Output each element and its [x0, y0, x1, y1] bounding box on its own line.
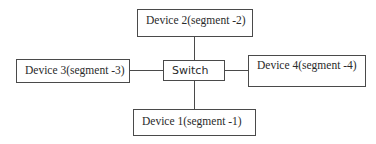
node-device-2: Device 2(segment -2)	[137, 9, 253, 37]
node-label: Device 3(segment -3)	[25, 64, 125, 76]
node-device-3: Device 3(segment -3)	[16, 59, 130, 83]
node-label: Device 4(segment -4)	[257, 59, 357, 71]
edge-switch-device-1	[194, 81, 195, 109]
node-device-4: Device 4(segment -4)	[248, 55, 366, 87]
node-label: Device 1(segment -1)	[142, 115, 242, 127]
edge-switch-device-4	[225, 70, 248, 71]
edge-switch-device-3	[130, 70, 163, 71]
network-diagram: Device 2(segment -2) Device 3(segment -3…	[0, 0, 376, 144]
edge-switch-device-2	[194, 37, 195, 60]
node-label: Switch	[172, 64, 208, 77]
node-device-1: Device 1(segment -1)	[133, 109, 256, 136]
node-label: Device 2(segment -2)	[146, 14, 246, 26]
node-switch: Switch	[163, 60, 225, 81]
